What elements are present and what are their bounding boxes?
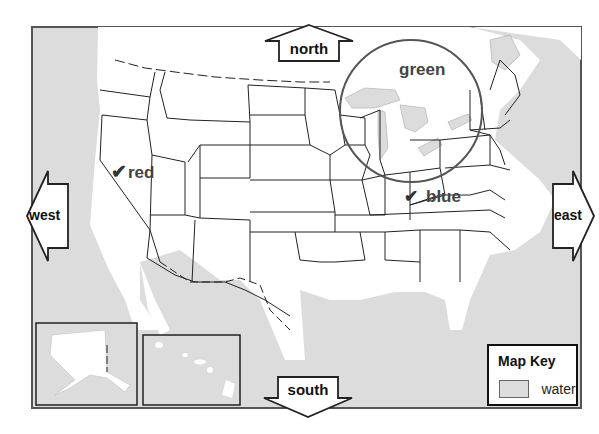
green-label: green bbox=[399, 60, 445, 80]
checkmark-icon: ✔ bbox=[404, 187, 418, 206]
water-swatch bbox=[499, 380, 529, 398]
south-arrow: south bbox=[262, 376, 354, 418]
map-key: Map Key water bbox=[487, 344, 578, 406]
north-label: north bbox=[263, 40, 355, 57]
north-arrow: north bbox=[263, 24, 355, 62]
alaska-inset bbox=[36, 323, 137, 405]
blue-marker: ✔blue bbox=[404, 186, 461, 207]
east-label: east bbox=[554, 207, 582, 223]
map-key-item-water: water bbox=[499, 379, 576, 398]
red-marker: ✔red bbox=[111, 160, 154, 183]
west-label: west bbox=[29, 207, 60, 223]
south-label: south bbox=[262, 381, 354, 398]
map-key-title: Map Key bbox=[498, 353, 556, 369]
checkmark-icon: ✔ bbox=[111, 161, 127, 182]
west-arrow: west bbox=[26, 170, 70, 262]
hawaii-inset bbox=[143, 335, 240, 405]
blue-label: blue bbox=[426, 187, 461, 206]
east-arrow: east bbox=[551, 170, 595, 262]
red-label: red bbox=[128, 163, 154, 182]
water-label: water bbox=[541, 381, 575, 397]
